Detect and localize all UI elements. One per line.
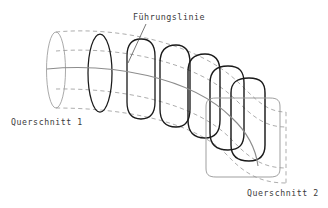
- diagram-canvas: Führungslinie Querschnitt 1 Querschnitt …: [0, 0, 328, 208]
- guide-line-label: Führungslinie: [133, 12, 205, 22]
- diagram-background: [0, 0, 328, 208]
- cross-section-2-label: Querschnitt 2: [247, 188, 319, 198]
- cross-section-1-label: Querschnitt 1: [11, 117, 83, 127]
- loft-geometry-diagram: Führungslinie Querschnitt 1 Querschnitt …: [0, 0, 328, 208]
